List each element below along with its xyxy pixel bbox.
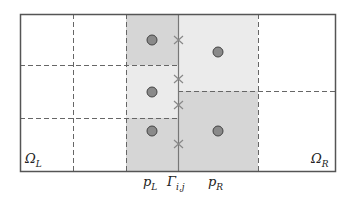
label-omega-right: ΩR: [311, 152, 329, 169]
gamma-subscript: i,j: [176, 182, 185, 192]
mesh-diagram: [0, 0, 353, 201]
point-icon: [147, 35, 157, 45]
omega-left-symbol: Ω: [25, 151, 36, 166]
point-icon: [147, 87, 157, 97]
p-left-subscript: L: [151, 182, 157, 192]
omega-left-subscript: L: [36, 159, 42, 169]
p-right-subscript: R: [216, 182, 223, 192]
omega-right-symbol: Ω: [311, 151, 322, 166]
point-icon: [213, 47, 223, 57]
label-gamma: Γi,j: [167, 175, 185, 192]
label-p-right: pR: [208, 175, 223, 192]
point-icon: [147, 126, 157, 136]
omega-right-subscript: R: [322, 159, 329, 169]
label-p-left: pL: [143, 175, 157, 192]
gamma-symbol: Γ: [167, 174, 176, 189]
label-omega-left: ΩL: [25, 152, 42, 169]
point-icon: [213, 126, 223, 136]
